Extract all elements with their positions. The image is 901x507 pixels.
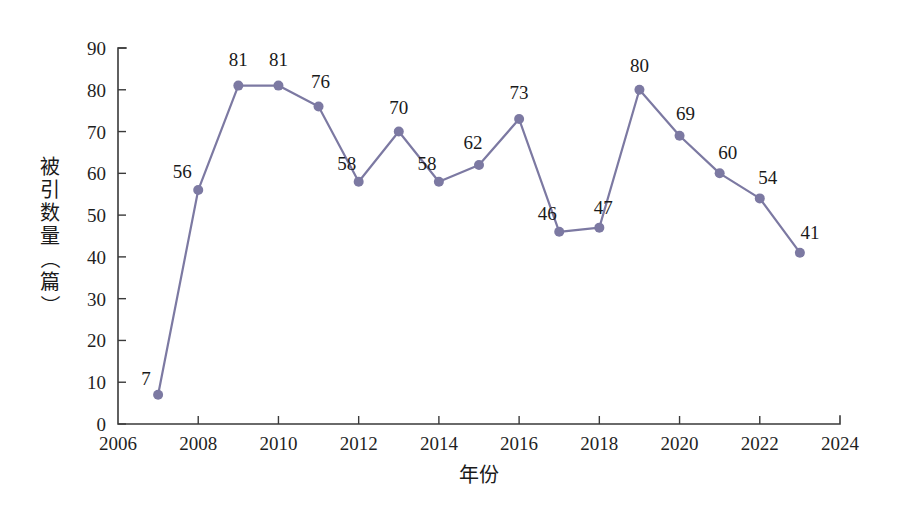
x-tick-label: 2016 [500,433,538,454]
y-tick-label: 40 [87,247,106,268]
data-point-label: 81 [269,49,288,70]
data-point-label: 73 [510,82,529,103]
data-point [434,177,444,187]
x-tick-label: 2022 [741,433,779,454]
data-point-label: 60 [718,142,737,163]
data-point-label: 56 [173,161,192,182]
axes [118,48,840,424]
series-markers [153,81,805,400]
data-point-labels: 756818176587058627346478069605441 [141,49,819,389]
data-point [314,101,324,111]
y-axis-title-char: 数 [40,202,60,224]
x-tick-label: 2010 [259,433,297,454]
data-point [715,168,725,178]
y-tick-label: 50 [87,205,106,226]
x-axis-ticks [198,416,760,424]
y-axis-tick-labels: 0102030405060708090 [87,38,106,435]
y-tick-label: 10 [87,372,106,393]
y-axis-title-char: 引 [40,179,60,201]
y-tick-label: 60 [87,163,106,184]
data-point [474,160,484,170]
data-point-label: 41 [800,222,819,243]
data-point-label: 47 [594,197,613,218]
data-point [273,81,283,91]
x-axis-title-text: 年份 [459,464,499,486]
data-point [795,248,805,258]
y-tick-label: 30 [87,289,106,310]
data-point-label: 70 [389,97,408,118]
y-axis-title-char: （ [39,249,61,269]
y-tick-label: 0 [97,414,107,435]
data-point-label: 7 [141,368,151,389]
x-axis-tick-labels: 2006200820102012201420162018202020222024 [99,433,860,454]
data-point-label: 80 [630,55,649,76]
citation-line-chart: 0102030405060708090 20062008201020122014… [0,0,901,507]
x-tick-label: 2006 [99,433,137,454]
y-axis-title-char: 被 [40,156,60,178]
data-point-label: 62 [464,132,483,153]
data-point-label: 69 [676,103,695,124]
x-tick-label: 2024 [821,433,860,454]
y-axis-title-char: 篇 [40,271,60,293]
y-axis-ticks [118,48,126,424]
data-point [514,114,524,124]
data-point [594,223,604,233]
y-tick-label: 90 [87,38,106,59]
x-tick-label: 2018 [580,433,618,454]
x-tick-label: 2014 [420,433,459,454]
data-point [394,127,404,137]
y-tick-label: 20 [87,330,106,351]
data-point-label: 76 [311,71,330,92]
data-point-label: 54 [758,167,778,188]
chart-canvas: 0102030405060708090 20062008201020122014… [0,0,901,507]
y-axis-title-char: 量 [40,225,60,247]
data-point [675,131,685,141]
data-point [554,227,564,237]
y-tick-label: 70 [87,122,106,143]
data-point-label: 58 [417,153,436,174]
data-point [634,85,644,95]
y-axis-title: 被引数量（篇） [39,156,61,315]
data-point [153,390,163,400]
data-point-label: 58 [337,153,356,174]
data-point [755,193,765,203]
x-tick-label: 2012 [340,433,378,454]
data-point-label: 81 [229,49,248,70]
data-point [354,177,364,187]
y-tick-label: 80 [87,80,106,101]
data-point-label: 46 [538,203,557,224]
data-point [233,81,243,91]
x-tick-label: 2020 [661,433,699,454]
x-axis-title: 年份 [459,464,499,486]
x-tick-label: 2008 [179,433,217,454]
y-axis-title-char: ） [39,295,61,315]
data-point [193,185,203,195]
